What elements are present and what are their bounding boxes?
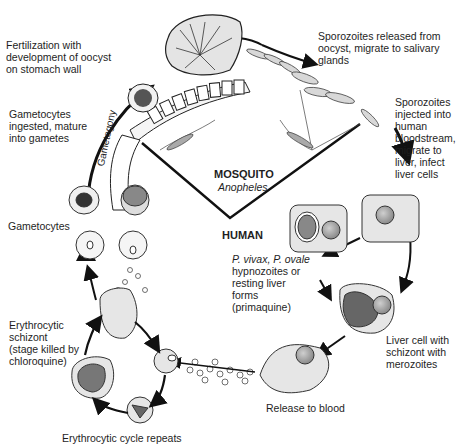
label-line: Erythrocytic <box>9 319 79 331</box>
label-line: P. vivax, P. ovale <box>232 253 310 265</box>
label-gametocytes-ingested: Gametocytes ingested, mature into gamete… <box>9 108 87 144</box>
label-line: forms <box>232 289 310 301</box>
label-line: glands <box>318 54 441 66</box>
label-line: liver cells <box>395 168 456 180</box>
label-gametocytes: Gametocytes <box>8 220 70 232</box>
label-sporozoites-injected: Sporozoites injected into human bloodstr… <box>395 96 456 180</box>
label-sporozoites-released: Sporozoites released from oocyst, migrat… <box>318 30 441 66</box>
label-erythrocytic-schizont: Erythrocytic schizont (stage killed by c… <box>9 319 79 367</box>
oocyst-young <box>128 84 158 112</box>
label-erythrocytic-cycle: Erythrocytic cycle repeats <box>62 432 182 444</box>
label-line: injected into <box>395 108 456 120</box>
label-fertilization: Fertilization with development of oocyst… <box>6 39 111 75</box>
label-line: human <box>395 120 456 132</box>
label-mosquito: MOSQUITO <box>214 168 274 180</box>
label-line: on stomach wall <box>6 63 111 75</box>
label-anopheles: Anopheles <box>218 181 268 193</box>
oocyst-mature <box>166 15 242 75</box>
label-line: hypnozoites or <box>232 265 310 277</box>
label-line: into gametes <box>9 132 87 144</box>
label-line: schizont <box>9 331 79 343</box>
erythrocytic-cycle <box>72 288 178 423</box>
label-line: chloroquine) <box>9 355 79 367</box>
label-release-to-blood: Release to blood <box>266 402 345 414</box>
label-line: Liver cell with <box>386 334 449 346</box>
label-line: resting liver <box>232 277 310 289</box>
label-human: HUMAN <box>222 229 263 241</box>
label-liver-schizont: Liver cell with schizont with merozoites <box>386 334 449 370</box>
label-line: liver, infect <box>395 156 456 168</box>
label-line: merozoites <box>386 358 449 370</box>
label-line: schizont with <box>386 346 449 358</box>
gametocyte-cells <box>69 185 149 259</box>
label-line: (primaquine) <box>232 301 310 313</box>
label-line: Sporozoites <box>395 96 456 108</box>
label-line: ingested, mature <box>9 120 87 132</box>
label-line: development of oocyst <box>6 51 111 63</box>
label-line: Sporozoites released from <box>318 30 441 42</box>
label-line: oocyst, migrate to salivary <box>318 42 441 54</box>
label-line: (stage killed by <box>9 343 79 355</box>
label-line: Gametocytes <box>9 108 87 120</box>
label-line: bloodstream, <box>395 132 456 144</box>
label-hypnozoites: P. vivax, P. ovale hypnozoites or restin… <box>232 253 310 313</box>
label-line: migrate to <box>395 144 456 156</box>
label-line: Fertilization with <box>6 39 111 51</box>
